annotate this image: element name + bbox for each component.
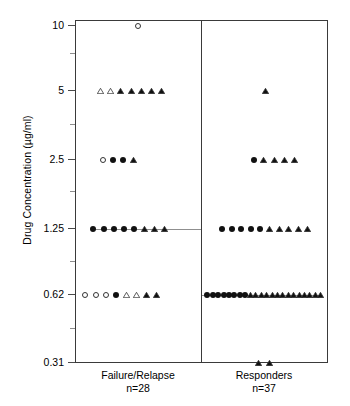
y-tick-0-62 [68, 294, 75, 295]
data-point-tri-filled [295, 226, 302, 232]
y-tick-2-5 [68, 159, 75, 160]
data-point-tri-filled [148, 88, 155, 94]
data-point-tri-filled [128, 88, 135, 94]
y-tick-10 [68, 25, 75, 26]
y-tick-label-5: 5 [20, 85, 64, 95]
data-point-tri-filled [158, 88, 165, 94]
data-point-tri-filled [276, 226, 283, 232]
data-point-circle-open [93, 292, 99, 298]
data-point-tri-filled [138, 88, 145, 94]
data-point-tri-filled [266, 360, 273, 366]
data-point-circle-open [100, 157, 106, 163]
panel-responders [202, 21, 327, 362]
data-point-tri-filled [151, 226, 158, 232]
data-point-circle-filled [238, 226, 244, 232]
panel-failure-relapse [76, 21, 201, 362]
data-point-tri-open [133, 292, 140, 298]
data-point-tri-filled [285, 226, 292, 232]
plot-area [75, 20, 328, 363]
data-point-tri-open [97, 88, 104, 94]
data-point-circle-filled [121, 226, 127, 232]
data-point-tri-filled [291, 157, 298, 163]
data-point-circle-filled [257, 226, 263, 232]
y-tick-5 [68, 90, 75, 91]
data-point-circle-open [103, 292, 109, 298]
data-point-tri-filled [161, 226, 168, 232]
data-point-circle-filled [90, 226, 96, 232]
x-group-label-failure-relapse: Failure/Relapsen=28 [68, 369, 208, 395]
group-name: Responders [194, 369, 334, 382]
data-point-tri-filled [141, 226, 148, 232]
data-point-tri-filled [153, 292, 160, 298]
data-point-tri-filled [271, 157, 278, 163]
y-tick-label-0-31: 0.31 [20, 357, 64, 367]
y-axis-title: Drug Concentration (µg/ml) [21, 90, 37, 270]
data-point-tri-open [107, 88, 114, 94]
group-count: n=37 [194, 382, 334, 395]
data-point-tri-filled [266, 226, 273, 232]
y-tick-1-25 [68, 228, 75, 229]
data-point-tri-filled [130, 157, 137, 163]
data-point-circle-filled [120, 157, 126, 163]
group-count: n=28 [68, 382, 208, 395]
y-tick-0-31 [68, 362, 75, 363]
data-point-circle-filled [113, 292, 119, 298]
data-point-tri-filled [262, 88, 269, 94]
data-point-circle-filled [101, 226, 107, 232]
data-point-tri-filled [304, 226, 311, 232]
data-point-circle-open [135, 23, 141, 29]
data-point-tri-filled [255, 360, 262, 366]
data-point-tri-filled [260, 157, 267, 163]
data-point-tri-open [123, 292, 130, 298]
y-tick-label-10: 10 [20, 20, 64, 30]
data-point-circle-filled [110, 157, 116, 163]
dot-plot-figure: Drug Concentration (µg/ml) 1052.51.250.6… [0, 0, 350, 406]
data-point-circle-filled [229, 226, 235, 232]
y-tick-label-0-62: 0.62 [20, 289, 64, 299]
data-point-tri-filled [117, 88, 124, 94]
data-point-tri-filled [317, 292, 324, 298]
data-point-circle-open [82, 292, 88, 298]
group-name: Failure/Relapse [68, 369, 208, 382]
data-point-circle-filled [251, 157, 257, 163]
data-point-circle-filled [248, 226, 254, 232]
y-tick-label-1-25: 1.25 [20, 223, 64, 233]
data-point-circle-filled [131, 226, 137, 232]
data-point-tri-filled [143, 292, 150, 298]
data-point-circle-filled [111, 226, 117, 232]
data-point-tri-filled [281, 157, 288, 163]
y-tick-label-2-5: 2.5 [20, 154, 64, 164]
x-group-label-responders: Respondersn=37 [194, 369, 334, 395]
data-point-circle-filled [219, 226, 225, 232]
